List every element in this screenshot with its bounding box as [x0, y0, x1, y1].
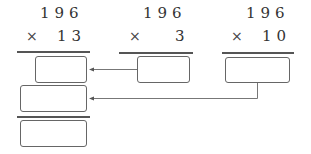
arrowhead-1-icon — [89, 68, 94, 72]
arrowhead-2-icon — [89, 97, 94, 101]
connector-arrows — [0, 0, 311, 154]
arrow-c-to-partial-2 — [93, 83, 258, 99]
